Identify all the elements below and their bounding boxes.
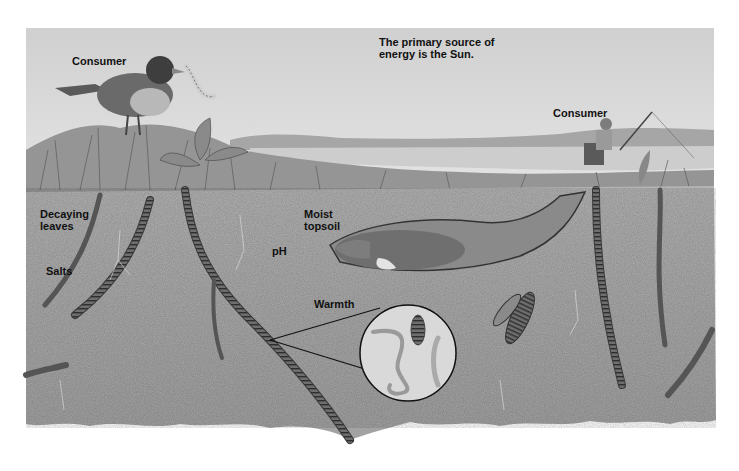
label-decaying-leaves: Decaying leaves bbox=[40, 208, 89, 232]
soil-ecosystem-illustration bbox=[0, 0, 739, 471]
label-warmth: Warmth bbox=[314, 298, 355, 310]
label-moist-topsoil: Moist topsoil bbox=[304, 208, 340, 232]
label-consumer-fisherman: Consumer bbox=[553, 107, 607, 119]
label-ph: pH bbox=[272, 245, 287, 257]
mole bbox=[335, 230, 465, 270]
label-sun-note: The primary source of energy is the Sun. bbox=[379, 36, 495, 60]
magnified-circle-nematodes bbox=[360, 305, 456, 401]
label-consumer-bird: Consumer bbox=[72, 55, 126, 67]
label-salts: Salts bbox=[46, 265, 72, 277]
